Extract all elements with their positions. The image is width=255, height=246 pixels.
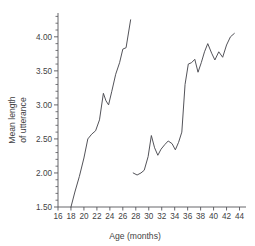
x-tick-label-22: 22 [92, 212, 102, 221]
y-tick-label-2.50: 2.50 [36, 135, 52, 144]
x-axis-tick-labels: 161820222426283032343638404244 [53, 212, 244, 221]
y-axis-title: Mean length of utterance [7, 96, 28, 144]
x-tick-label-28: 28 [131, 212, 141, 221]
x-tick-label-32: 32 [157, 212, 167, 221]
series-line-child-2 [133, 33, 234, 175]
y-axis-major-ticks [54, 37, 58, 207]
x-tick-label-34: 34 [170, 212, 180, 221]
y-axis-title-line-1: Mean length [7, 96, 17, 144]
x-tick-label-20: 20 [79, 212, 89, 221]
x-tick-label-26: 26 [118, 212, 128, 221]
y-axis-group: 1.502.002.503.003.504.00 [36, 13, 58, 212]
series-line-child-1 [71, 20, 131, 207]
chart-container: 1.502.002.503.003.504.00 161820222426283… [0, 0, 255, 246]
y-tick-label-4.00: 4.00 [36, 33, 52, 42]
data-series-group [71, 20, 234, 207]
y-tick-label-3.50: 3.50 [36, 67, 52, 76]
y-tick-label-1.50: 1.50 [36, 203, 52, 212]
x-tick-label-36: 36 [183, 212, 193, 221]
x-tick-label-18: 18 [66, 212, 76, 221]
y-axis-title-line-2: of utterance [18, 97, 28, 143]
x-tick-label-30: 30 [144, 212, 154, 221]
x-tick-label-24: 24 [105, 212, 115, 221]
x-tick-label-42: 42 [222, 212, 232, 221]
x-axis-group: 161820222426283032343638404244 [53, 207, 246, 221]
x-tick-label-40: 40 [209, 212, 219, 221]
y-axis-tick-labels: 1.502.002.503.003.504.00 [36, 33, 52, 212]
x-tick-label-38: 38 [196, 212, 206, 221]
x-tick-label-16: 16 [53, 212, 63, 221]
y-tick-label-2.00: 2.00 [36, 169, 52, 178]
x-axis-title: Age (months) [109, 231, 161, 241]
y-tick-label-3.00: 3.00 [36, 101, 52, 110]
mean-length-of-utterance-line-chart: 1.502.002.503.003.504.00 161820222426283… [0, 0, 255, 246]
x-axis-major-ticks [58, 207, 240, 211]
x-tick-label-44: 44 [235, 212, 245, 221]
